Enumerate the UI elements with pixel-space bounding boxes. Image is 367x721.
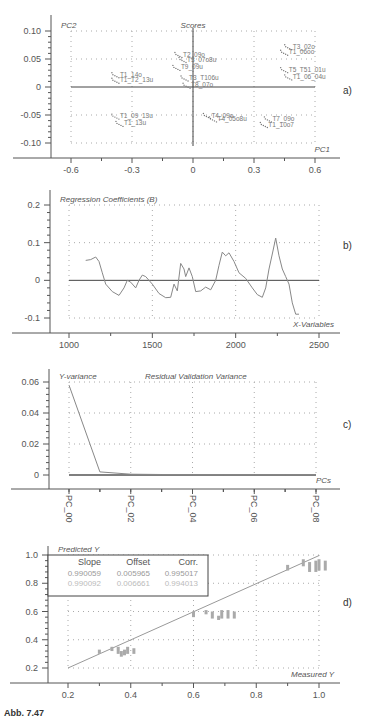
svg-text:2000: 2000 bbox=[226, 340, 246, 350]
svg-text:0.2: 0.2 bbox=[27, 200, 40, 210]
svg-text:0.05: 0.05 bbox=[23, 54, 41, 64]
svg-text:0.005965: 0.005965 bbox=[117, 569, 151, 578]
svg-text:Predicted Y: Predicted Y bbox=[58, 545, 100, 554]
prediction-marker bbox=[227, 610, 230, 618]
svg-text:1000: 1000 bbox=[59, 340, 79, 350]
chart-panel-b: 0.20.10-0.11000150020002500Regression Co… bbox=[12, 190, 352, 350]
svg-text:0: 0 bbox=[35, 275, 40, 285]
svg-text:0.1: 0.1 bbox=[27, 238, 40, 248]
svg-text:Measured Y: Measured Y bbox=[291, 670, 335, 679]
svg-text:-0.10: -0.10 bbox=[20, 138, 41, 148]
svg-text:-0.3: -0.3 bbox=[124, 165, 140, 175]
prediction-marker bbox=[98, 650, 101, 654]
prediction-marker bbox=[117, 647, 120, 654]
svg-text:0.6: 0.6 bbox=[25, 607, 38, 617]
regression-coefficient-curve bbox=[86, 238, 299, 314]
svg-text:0.994013: 0.994013 bbox=[165, 579, 199, 588]
svg-text:PC_06: PC_06 bbox=[249, 495, 259, 523]
prediction-marker bbox=[314, 561, 317, 572]
residual-variance-curve bbox=[69, 385, 316, 475]
svg-text:Regression Coefficients (B): Regression Coefficients (B) bbox=[60, 195, 158, 204]
svg-text:PC_02: PC_02 bbox=[126, 495, 136, 523]
score-label: T1_T2_13u bbox=[120, 76, 154, 84]
prediction-marker bbox=[211, 612, 214, 619]
score-label: T1_10o7 bbox=[268, 121, 294, 129]
svg-text:PCs: PCs bbox=[316, 476, 331, 485]
score-label: T1_06_04u bbox=[293, 73, 326, 81]
svg-text:PC_04: PC_04 bbox=[188, 495, 198, 523]
svg-text:-0.1: -0.1 bbox=[24, 313, 40, 323]
svg-text:0: 0 bbox=[190, 165, 195, 175]
svg-text:0: 0 bbox=[36, 82, 41, 92]
score-label: T1_06oo bbox=[289, 48, 315, 56]
chart-panel-a: 0.100.050-0.05-0.10-0.6-0.300.30.6PC2Sco… bbox=[13, 15, 352, 175]
svg-text:0.990092: 0.990092 bbox=[68, 579, 102, 588]
svg-text:0.8: 0.8 bbox=[25, 578, 38, 588]
prediction-marker bbox=[324, 561, 327, 571]
svg-text:PC_00: PC_00 bbox=[64, 495, 74, 523]
svg-text:a): a) bbox=[343, 85, 352, 96]
svg-text:PC1: PC1 bbox=[314, 145, 330, 154]
svg-text:0.995017: 0.995017 bbox=[165, 569, 199, 578]
svg-text:0.3: 0.3 bbox=[248, 165, 261, 175]
score-label: T1_13u bbox=[124, 119, 146, 127]
svg-text:0.6: 0.6 bbox=[187, 690, 200, 700]
svg-text:0.2: 0.2 bbox=[25, 663, 38, 673]
svg-text:0.04: 0.04 bbox=[21, 408, 39, 418]
svg-text:1500: 1500 bbox=[142, 340, 162, 350]
svg-text:2500: 2500 bbox=[309, 340, 329, 350]
prediction-marker bbox=[318, 559, 321, 570]
svg-text:0.10: 0.10 bbox=[23, 26, 41, 36]
score-label: T8_07o bbox=[191, 81, 213, 89]
svg-text:d): d) bbox=[343, 597, 352, 608]
chart-panel-c: 0.060.040.020PC_00PC_02PC_04PC_06PC_08Y-… bbox=[11, 369, 351, 523]
score-label: T3_07o8u bbox=[187, 56, 217, 64]
prediction-marker bbox=[132, 648, 135, 654]
svg-text:1.0: 1.0 bbox=[313, 690, 326, 700]
svg-text:b): b) bbox=[343, 240, 352, 251]
prediction-marker bbox=[308, 562, 311, 572]
svg-text:0.4: 0.4 bbox=[124, 690, 137, 700]
svg-text:-0.05: -0.05 bbox=[20, 110, 41, 120]
svg-text:PC_08: PC_08 bbox=[311, 495, 321, 523]
svg-text:c): c) bbox=[343, 419, 351, 430]
score-label: T4_05o8u bbox=[218, 115, 248, 123]
prediction-marker bbox=[220, 610, 223, 618]
svg-text:1.0: 1.0 bbox=[25, 550, 38, 560]
svg-text:0.06: 0.06 bbox=[21, 377, 39, 387]
svg-text:PC2: PC2 bbox=[61, 21, 77, 30]
svg-text:Slope: Slope bbox=[78, 557, 101, 567]
svg-text:Offset: Offset bbox=[126, 557, 150, 567]
prediction-marker bbox=[126, 647, 129, 654]
svg-text:0.6: 0.6 bbox=[309, 165, 322, 175]
svg-text:-0.6: -0.6 bbox=[63, 165, 79, 175]
prediction-marker bbox=[123, 650, 126, 656]
score-label: T9_09u bbox=[181, 63, 203, 71]
prediction-marker bbox=[110, 647, 113, 651]
svg-text:X-Variables: X-Variables bbox=[292, 320, 334, 329]
prediction-marker bbox=[205, 610, 208, 614]
svg-text:0.8: 0.8 bbox=[250, 690, 263, 700]
prediction-marker bbox=[217, 616, 220, 620]
prediction-marker bbox=[233, 612, 236, 619]
prediction-marker bbox=[192, 612, 195, 618]
figure-caption: Abb. 7.47 bbox=[4, 708, 44, 718]
svg-text:Corr.: Corr. bbox=[178, 557, 198, 567]
figure-canvas: 0.100.050-0.05-0.10-0.6-0.300.30.6PC2Sco… bbox=[0, 0, 367, 721]
prediction-marker bbox=[302, 559, 305, 566]
svg-text:0.006661: 0.006661 bbox=[117, 579, 151, 588]
svg-text:Residual Validation Variance: Residual Validation Variance bbox=[145, 372, 247, 381]
prediction-marker bbox=[120, 651, 123, 657]
svg-text:0.2: 0.2 bbox=[62, 690, 75, 700]
prediction-marker bbox=[286, 565, 289, 571]
svg-text:0: 0 bbox=[34, 470, 39, 480]
svg-text:Y-variance: Y-variance bbox=[59, 372, 97, 381]
svg-text:0.990059: 0.990059 bbox=[68, 569, 102, 578]
svg-text:0.02: 0.02 bbox=[21, 439, 39, 449]
svg-text:0.4: 0.4 bbox=[25, 635, 38, 645]
chart-panel-d: 1.00.80.60.40.20.20.40.60.81.0Predicted … bbox=[10, 545, 352, 700]
